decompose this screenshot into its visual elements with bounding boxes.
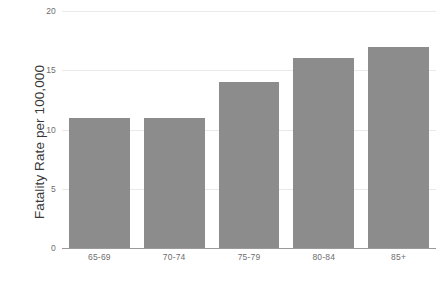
y-axis-tick-label: 20 <box>30 6 56 16</box>
x-axis-tick-label: 85+ <box>391 252 406 262</box>
x-axis-tick-label: 65-69 <box>88 252 111 262</box>
x-axis-tick-labels: 65-6970-7475-7980-8485+ <box>62 252 436 272</box>
y-axis-tick-label: 0 <box>30 243 56 253</box>
bar-chart: Fatality Rate per 100,000 05101520 65-69… <box>0 0 443 284</box>
x-axis-line <box>62 248 436 249</box>
y-axis-tick-label: 15 <box>30 65 56 75</box>
plot-area <box>62 11 436 248</box>
y-axis-tick-label: 10 <box>30 125 56 135</box>
x-axis-tick-label: 75-79 <box>238 252 261 262</box>
x-axis-tick-label: 80-84 <box>312 252 335 262</box>
bar <box>144 118 205 248</box>
y-axis-tick-labels: 05101520 <box>28 11 56 248</box>
bars-group <box>62 11 436 248</box>
bar <box>219 82 280 248</box>
bar <box>368 47 429 248</box>
y-axis-tick-label: 5 <box>30 184 56 194</box>
bar <box>69 118 130 248</box>
x-axis-tick-label: 70-74 <box>163 252 186 262</box>
bar <box>293 58 354 248</box>
